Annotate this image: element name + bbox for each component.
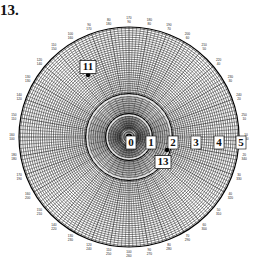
angle-tick: 50310: [216, 208, 222, 216]
point-label: 13: [158, 155, 170, 167]
angle-tick: 160200: [25, 192, 31, 200]
angle-tick-inner: 250: [106, 252, 112, 256]
angle-tick-inner: 110: [11, 117, 16, 121]
angle-tick-inner: 260: [126, 254, 132, 258]
angle-tick: 130130: [25, 75, 31, 83]
angle-tick-inner: 270: [147, 252, 153, 256]
angle-tick: 21050: [202, 43, 208, 51]
angle-tick: 100260: [126, 250, 132, 258]
angle-tick: 70290: [185, 234, 191, 242]
angle-tick-inner: 220: [51, 227, 57, 231]
angle-tick-inner: 100: [9, 137, 15, 141]
angle-tick: 180180: [11, 153, 17, 161]
angle-tick: 30330: [236, 173, 242, 181]
angle-tick-inner: 10: [242, 117, 246, 121]
angle-tick-inner: 80: [148, 22, 152, 26]
angle-tick: 20340: [242, 153, 248, 161]
angle-tick-inner: 60: [186, 36, 190, 40]
angle-tick-inner: 300: [202, 227, 208, 231]
angle-tick-inner: 120: [16, 97, 22, 101]
angle-tick: 110150: [51, 43, 57, 51]
angle-tick: 22040: [216, 58, 222, 66]
angle-tick-inner: 290: [185, 238, 191, 242]
angle-tick-inner: 150: [51, 47, 57, 51]
angle-tick-inner: 330: [236, 177, 242, 181]
angle-tick: 140120: [16, 93, 22, 101]
angle-tick: 130230: [68, 234, 74, 242]
radial-label-text: 0: [128, 136, 134, 148]
radial-label-text: 2: [170, 136, 176, 148]
angle-tick-inner: 190: [16, 177, 22, 181]
angle-tick: 18080: [147, 18, 153, 26]
angle-tick-inner: 20: [237, 97, 241, 101]
angle-tick: 19070: [166, 23, 172, 31]
radial-label-2: 2: [168, 136, 178, 149]
angle-tick: 90170: [86, 23, 92, 31]
angle-tick-inner: 70: [167, 27, 171, 31]
angle-tick: 60300: [202, 223, 208, 231]
angle-tick: 80280: [166, 243, 172, 251]
angle-tick-inner: 200: [25, 196, 31, 200]
angle-tick-inner: 180: [106, 22, 112, 26]
angle-tick-inner: 40: [217, 62, 221, 66]
radial-label-4: 4: [214, 136, 224, 149]
angle-tick: 140220: [51, 223, 57, 231]
angle-tick: 100160: [68, 32, 74, 40]
angle-tick-inner: 210: [37, 212, 43, 216]
angle-tick-inner: 320: [228, 196, 234, 200]
angle-tick: 170190: [16, 173, 22, 181]
angle-tick: 80180: [106, 18, 112, 26]
point-marker: [165, 148, 169, 152]
angle-tick: 150210: [37, 208, 43, 216]
angle-tick: 110250: [106, 248, 112, 256]
radial-label-text: 4: [216, 136, 222, 148]
angle-tick-inner: 90: [127, 20, 131, 24]
angle-tick-inner: 170: [86, 27, 92, 31]
angle-tick-inner: 280: [166, 247, 172, 251]
radial-label-text: 5: [238, 136, 244, 148]
angle-tick-inner: 30: [229, 79, 233, 83]
angle-tick-inner: 230: [68, 238, 74, 242]
angle-tick: 20060: [185, 32, 191, 40]
angle-tick: 40320: [228, 192, 234, 200]
angle-tick-inner: 180: [11, 157, 17, 161]
angle-tick-inner: 50: [202, 47, 206, 51]
radial-label-text: 1: [148, 136, 154, 148]
angle-tick-inner: 310: [216, 212, 222, 216]
angle-tick: 24020: [236, 93, 242, 101]
angle-tick: 17090: [126, 16, 132, 24]
radial-label-5: 5: [236, 136, 246, 149]
angle-tick-inner: 340: [242, 157, 248, 161]
angle-tick: 23030: [228, 75, 234, 83]
angle-tick: 120140: [37, 58, 43, 66]
radial-label-1: 1: [146, 136, 156, 149]
radial-label-3: 3: [191, 136, 201, 149]
angle-tick-inner: 240: [86, 247, 92, 251]
radial-label-0: 0: [126, 136, 136, 149]
radial-label-text: 3: [193, 136, 199, 148]
point-label: 11: [83, 60, 93, 72]
angle-tick: 160100: [9, 133, 15, 141]
polar-grid-chart: 1709018080190702006021050220402303024020…: [0, 0, 256, 266]
angle-tick: 25010: [242, 113, 248, 121]
angle-tick: 90270: [147, 248, 153, 256]
angle-tick-inner: 130: [25, 79, 31, 83]
angle-tick-inner: 140: [37, 62, 43, 66]
angle-tick: 150110: [11, 113, 17, 121]
angle-tick-inner: 160: [68, 36, 74, 40]
angle-tick: 120240: [86, 243, 92, 251]
